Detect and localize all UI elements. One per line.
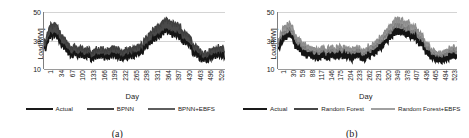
x-tick-label: 496 — [208, 70, 215, 81]
chart-a-y-tick-labels: 50 30 10 — [27, 12, 41, 69]
x-tick-label: 331 — [155, 70, 162, 81]
x-tick-label: 133 — [91, 70, 98, 81]
legend-line-icon-random-forest — [294, 108, 318, 110]
x-tick-label: 67 — [70, 70, 77, 77]
x-tick-label: 494 — [443, 70, 450, 81]
x-tick-label: 430 — [187, 70, 194, 81]
chart-b-legend-item-random-forest: Random Forest — [294, 105, 364, 112]
legend-line-icon-bpnn-ebfs — [148, 108, 175, 110]
chart-a-series-plot — [44, 12, 225, 69]
chart-a-legend-item-bpnn: BPNN — [87, 105, 134, 112]
chart-b-ytick-10: 10 — [267, 66, 275, 73]
chart-b-legend-item-random-forest-ebfs: Random Forest+EBFS — [371, 105, 460, 112]
figure-container: Load[MW] 50 30 10 1346710013316619923226… — [0, 0, 469, 138]
chart-a-ytick-30: 30 — [33, 37, 41, 44]
x-tick-label: 463 — [198, 70, 205, 81]
x-tick-label: 30 — [291, 70, 298, 77]
x-tick-label: 349 — [395, 70, 402, 81]
x-tick-label: 529 — [219, 70, 226, 81]
chart-b-legend-label-random-forest-ebfs: Random Forest+EBFS — [398, 105, 460, 112]
x-tick-label: 166 — [102, 70, 109, 81]
x-tick-label: 378 — [405, 70, 412, 81]
x-tick-label: 232 — [123, 70, 130, 81]
chart-a-ytick-50: 50 — [33, 9, 41, 16]
x-tick-label: 233 — [357, 70, 364, 81]
legend-line-icon-bpnn — [87, 108, 114, 110]
x-tick-label: 117 — [319, 70, 326, 80]
x-tick-label: 364 — [166, 70, 173, 81]
chart-b-x-axis-title: Day — [235, 92, 469, 101]
x-tick-label: 262 — [367, 70, 374, 81]
chart-a-inner: Load[MW] 50 30 10 1346710013316619923226… — [0, 0, 235, 118]
chart-b-legend: Actual Random Forest Random Forest+EBFS — [235, 105, 469, 112]
x-tick-label: 465 — [433, 70, 440, 81]
chart-panel-a: Load[MW] 50 30 10 1346710013316619923226… — [0, 0, 235, 138]
chart-b-x-tick-labels: 1305988117146175204233262291320349378407… — [277, 70, 458, 92]
x-tick-label: 204 — [348, 70, 355, 81]
x-tick-label: 88 — [310, 70, 317, 77]
chart-a-legend-label-actual: Actual — [56, 105, 73, 112]
chart-b-series-plot — [278, 12, 458, 69]
chart-a-legend-label-bpnn: BPNN — [117, 105, 134, 112]
x-tick-label: 265 — [134, 70, 141, 81]
chart-b-ytick-30: 30 — [267, 37, 275, 44]
chart-a-legend-item-bpnn-ebfs: BPNN+EBFS — [148, 105, 215, 112]
x-tick-label: 1 — [48, 70, 55, 74]
chart-panel-b: Load[MW] 50 30 10 1305988117146175204233… — [235, 0, 469, 138]
x-tick-label: 146 — [329, 70, 336, 81]
chart-a-plot-area — [43, 12, 225, 69]
chart-a-ytick-10: 10 — [33, 66, 41, 73]
x-tick-label: 407 — [414, 70, 421, 81]
chart-a-x-tick-labels: 1346710013316619923226529833136439743046… — [43, 70, 225, 92]
chart-a-legend-label-bpnn-ebfs: BPNN+EBFS — [178, 105, 215, 112]
chart-a-legend-item-actual: Actual — [26, 105, 73, 112]
x-tick-label: 298 — [144, 70, 151, 81]
x-tick-label: 397 — [176, 70, 183, 81]
chart-b-ytick-50: 50 — [267, 9, 275, 16]
chart-a-x-axis-title: Day — [0, 92, 235, 101]
chart-b-legend-label-random-forest: Random Forest — [321, 105, 364, 112]
chart-b-inner: Load[MW] 50 30 10 1305988117146175204233… — [235, 0, 469, 118]
x-tick-label: 175 — [338, 70, 345, 81]
chart-b-y-tick-labels: 50 30 10 — [261, 12, 275, 69]
chart-b-plot-area — [277, 12, 458, 69]
x-tick-label: 291 — [376, 70, 383, 81]
chart-b-caption: (b) — [235, 128, 469, 138]
x-tick-label: 320 — [386, 70, 393, 81]
chart-b-legend-item-actual: Actual — [243, 105, 287, 112]
chart-a-caption: (a) — [0, 128, 235, 138]
x-tick-label: 34 — [59, 70, 66, 77]
x-tick-label: 199 — [112, 70, 119, 81]
legend-line-icon-actual — [26, 108, 53, 110]
x-tick-label: 100 — [80, 70, 87, 81]
x-tick-label: 523 — [452, 70, 459, 81]
legend-line-icon-actual — [243, 108, 267, 110]
x-tick-label: 1 — [281, 70, 288, 74]
chart-b-legend-label-actual: Actual — [270, 105, 287, 112]
x-tick-label: 59 — [300, 70, 307, 77]
legend-line-icon-random-forest-ebfs — [371, 108, 395, 110]
x-tick-label: 436 — [424, 70, 431, 81]
chart-a-legend: Actual BPNN BPNN+EBFS — [0, 105, 235, 112]
